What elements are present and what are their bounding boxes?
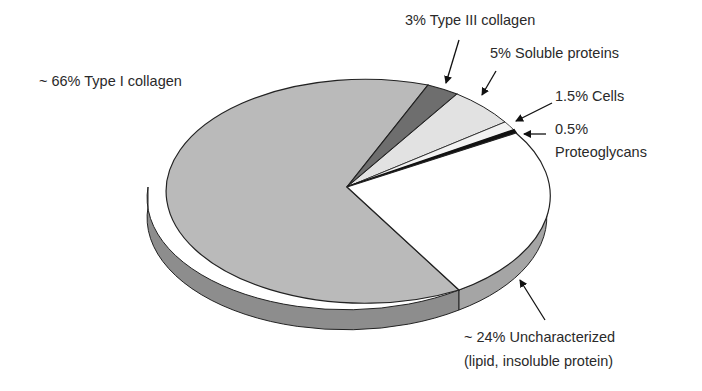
arrow-uncharacterized — [520, 280, 545, 320]
label-uncharacterized: ~ 24% Uncharacterized — [464, 328, 615, 346]
label-soluble-proteins: 5% Soluble proteins — [490, 44, 619, 62]
arrow-type3 — [446, 40, 459, 83]
pie-top — [166, 79, 550, 303]
label-type3-collagen: 3% Type III collagen — [405, 11, 535, 29]
label-proteoglycans-pct: 0.5% — [555, 120, 588, 138]
label-uncharacterized-detail: (lipid, insoluble protein) — [464, 352, 613, 370]
arrow-cells — [516, 103, 552, 121]
label-proteoglycans-name: Proteoglycans — [555, 143, 647, 161]
label-type1-collagen: ~ 66% Type I collagen — [39, 72, 182, 90]
label-cells: 1.5% Cells — [555, 87, 624, 105]
arrow-soluble — [482, 71, 496, 95]
